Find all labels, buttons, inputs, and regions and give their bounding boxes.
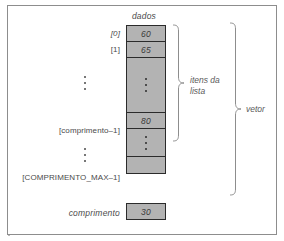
index-label-0: [0]: [111, 29, 120, 38]
brace-label-itens-da-lista: itens da lista: [190, 75, 220, 96]
dot: [84, 76, 86, 78]
dot: [145, 148, 147, 150]
dot: [145, 84, 147, 86]
brace-label-vetor: vetor: [246, 104, 265, 115]
dot: [84, 82, 86, 84]
index-ellipsis-upper: [84, 76, 86, 90]
column-header-dados: dados: [113, 11, 175, 21]
index-label-column: [0] [1] [comprimento–1] [COMPRIMENTO_MAX…: [6, 25, 120, 195]
dot: [84, 88, 86, 90]
index-label-comprimento-minus-1: [comprimento–1]: [59, 126, 120, 135]
array-cell-comprimento-minus-1: 80: [127, 113, 165, 129]
comprimento-label: comprimento: [40, 208, 120, 218]
array-cell-1: 65: [127, 42, 165, 58]
dot: [84, 148, 86, 150]
array-cell-0: 60: [127, 26, 165, 42]
brace-vetor: [229, 22, 243, 196]
dot: [145, 136, 147, 138]
array-vetor: 60 65 80: [126, 25, 166, 174]
dot: [145, 78, 147, 80]
dot: [84, 160, 86, 162]
dot: [145, 90, 147, 92]
dot: [84, 154, 86, 156]
brace-label-line-2: lista: [190, 86, 220, 97]
array-cell-comprimento-max-minus-1: [127, 157, 165, 173]
index-ellipsis-lower: [84, 148, 86, 162]
brace-itens-da-lista: [172, 24, 186, 142]
array-cell-ellipsis-upper: [127, 58, 165, 113]
index-label-1: [1]: [111, 45, 120, 54]
vertical-ellipsis-icon: [145, 136, 147, 150]
index-label-comprimento-max-minus-1: [COMPRIMENTO_MAX–1]: [22, 173, 120, 182]
diagram-canvas: dados [0] [1] [comprimento–1] [COMPRIMEN…: [0, 0, 284, 241]
array-cell-ellipsis-lower: [127, 129, 165, 157]
comprimento-value-box: 30: [126, 203, 166, 220]
brace-label-line-1: itens da: [190, 75, 220, 86]
vertical-ellipsis-icon: [145, 78, 147, 92]
dot: [145, 142, 147, 144]
brace-label-line-1: vetor: [246, 104, 265, 115]
